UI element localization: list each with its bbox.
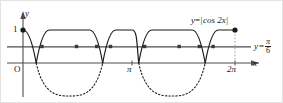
dashed-lobe-1 — [36, 63, 103, 96]
endpoint-dot-origin — [20, 27, 25, 32]
intersection-marker — [143, 45, 146, 48]
plot-area — [1, 1, 283, 103]
intersection-marker — [109, 45, 112, 48]
intersection-marker — [211, 45, 214, 48]
intersection-marker — [40, 45, 43, 48]
intersection-marker — [177, 45, 180, 48]
figure-container: y x 1 O π 2π y=|cos 2x| y=π6 — [0, 0, 283, 103]
y-axis-arrow — [20, 11, 25, 19]
x-axis-arrow — [251, 60, 259, 66]
dashed-lobe-2 — [139, 63, 206, 96]
endpoint-dot-twopi — [232, 27, 237, 32]
intersection-marker — [95, 45, 98, 48]
intersection-marker — [198, 45, 201, 48]
intersection-marker — [75, 45, 78, 48]
